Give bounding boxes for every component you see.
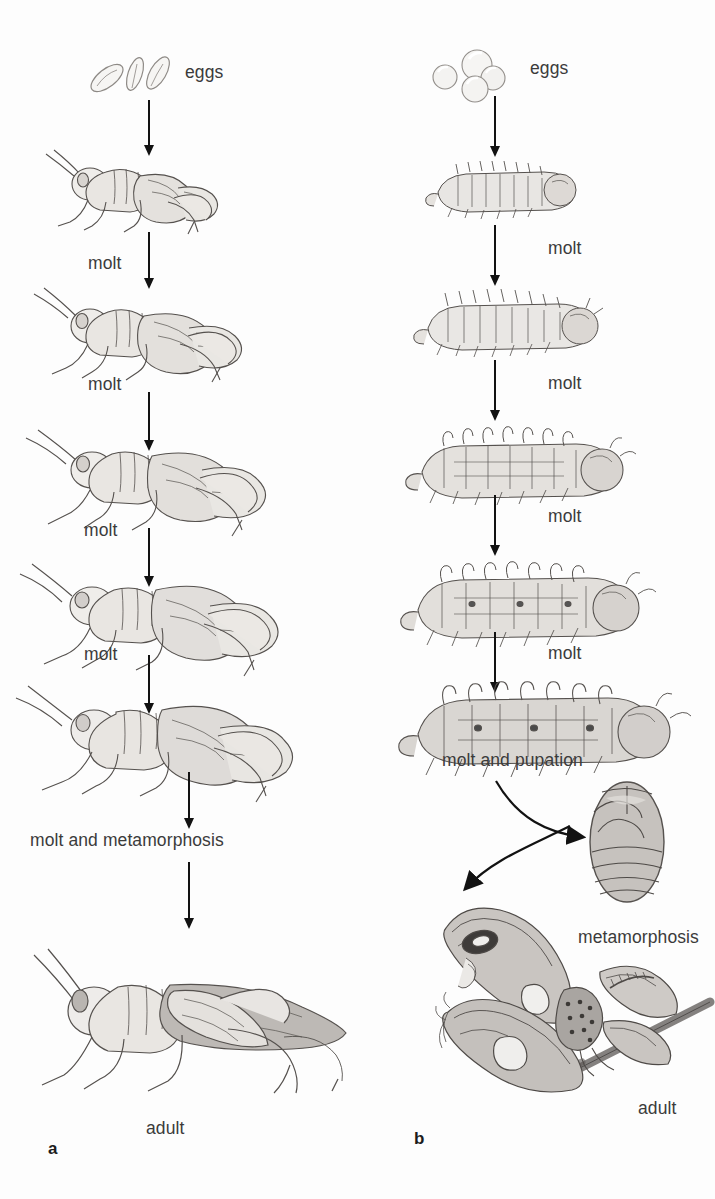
label-molt-b-1: molt — [548, 240, 581, 258]
stage-art-adult-moth — [414, 862, 714, 1092]
panel-letter-a: a — [48, 1140, 57, 1157]
stage-art-eggs-elongate — [85, 48, 180, 103]
stage-art-larva-1 — [418, 150, 598, 220]
arrow-to-adult-grasshopper — [188, 862, 190, 920]
arrow-larva3-to-larva4 — [494, 495, 496, 547]
panel-b-moth: eggs molt — [400, 0, 715, 1199]
stage-art-larva-3 — [406, 418, 656, 513]
stage-art-nymph-3 — [20, 418, 310, 538]
label-molt-and-pupation: molt and pupation — [442, 752, 583, 770]
panel-a-grasshopper: eggs — [0, 0, 400, 1199]
stage-art-larva-4 — [402, 552, 677, 652]
label-adult-a: adult — [146, 1120, 184, 1138]
stage-art-adult-grasshopper — [22, 925, 377, 1095]
label-molt-a-3: molt — [84, 522, 117, 540]
arrow-instar1-to-instar2 — [148, 232, 150, 280]
arrow-eggs-to-larva1 — [494, 96, 496, 148]
label-adult-b: adult — [638, 1100, 676, 1118]
arrow-larva2-to-larva3 — [494, 360, 496, 412]
label-molt-b-4: molt — [548, 645, 581, 663]
stage-art-nymph-2 — [24, 278, 289, 388]
label-molt-and-metamorphosis: molt and metamorphosis — [30, 832, 224, 850]
stage-art-nymph-1 — [28, 140, 268, 240]
label-eggs-b: eggs — [530, 60, 568, 78]
panel-letter-b: b — [414, 1130, 424, 1147]
label-molt-a-2: molt — [88, 376, 121, 394]
arrow-instar5-to-adult-upper — [188, 772, 190, 820]
metamorphosis-figure: eggs — [0, 0, 715, 1199]
label-eggs-a: eggs — [185, 64, 223, 82]
stage-art-nymph-4 — [16, 552, 321, 677]
label-molt-a-4: molt — [84, 646, 117, 664]
label-molt-b-3: molt — [548, 508, 581, 526]
label-molt-a-1: molt — [88, 255, 121, 273]
arrow-larva1-to-larva2 — [494, 225, 496, 277]
label-molt-b-2: molt — [548, 375, 581, 393]
label-metamorphosis: metamorphosis — [578, 929, 699, 947]
stage-art-nymph-5 — [14, 672, 334, 802]
stage-art-eggs-round — [430, 45, 520, 105]
stage-art-larva-2 — [410, 282, 625, 362]
